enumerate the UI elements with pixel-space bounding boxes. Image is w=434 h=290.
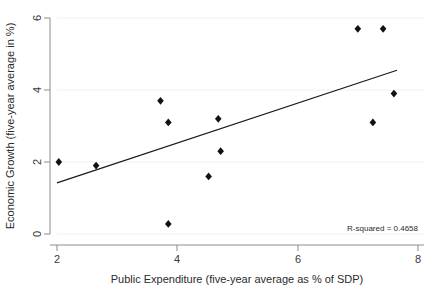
data-point-marker: [215, 115, 222, 123]
y-tick-label-2: 2: [31, 159, 43, 165]
regression-line: [57, 70, 397, 183]
y-tick-label-4: 4: [31, 87, 43, 93]
x-tick-label-8: 8: [415, 253, 421, 265]
data-point-marker: [205, 173, 212, 181]
plot-canvas: 0 2 4 6 2 4 6 8 Public Expenditure (five…: [0, 0, 434, 290]
x-axis: 2 4 6 8: [50, 245, 424, 265]
data-point-marker: [56, 158, 63, 166]
r-squared-annotation: R-squared = 0.4658: [347, 224, 418, 233]
x-axis-title: Public Expenditure (five-year average as…: [111, 273, 364, 285]
data-point-marker: [355, 25, 362, 33]
y-axis-title: Economic Growth (five-year average in %): [4, 23, 16, 230]
data-point-marker: [93, 162, 100, 170]
data-point-marker: [380, 25, 387, 33]
y-axis: 0 2 4 6: [31, 15, 50, 237]
data-point-marker: [165, 220, 172, 228]
scatter-plot-figure: 0 2 4 6 2 4 6 8 Public Expenditure (five…: [0, 0, 434, 290]
gridlines: [57, 18, 424, 234]
data-point-marker: [157, 97, 164, 105]
y-tick-label-6: 6: [31, 15, 43, 21]
x-tick-label-2: 2: [54, 253, 60, 265]
data-point-marker: [165, 119, 172, 127]
y-tick-label-0: 0: [31, 231, 43, 237]
data-point-marker: [370, 119, 377, 127]
x-tick-label-6: 6: [295, 253, 301, 265]
x-tick-label-4: 4: [174, 253, 180, 265]
data-point-marker: [217, 147, 224, 155]
data-point-marker: [391, 90, 398, 98]
